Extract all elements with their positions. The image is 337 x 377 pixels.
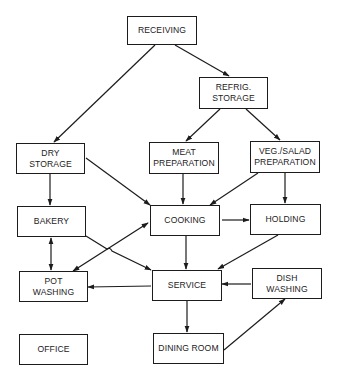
arrow-receiving-to-dry-storage bbox=[54, 45, 155, 142]
node-service: SERVICE bbox=[152, 270, 222, 301]
arrow-refrig-to-veg bbox=[246, 109, 280, 140]
node-label: PREPARATION bbox=[153, 158, 214, 169]
node-dry-storage: DRY STORAGE bbox=[16, 143, 85, 174]
arrow-holding-to-service bbox=[218, 235, 278, 269]
node-refrig-storage: REFRIG. STORAGE bbox=[199, 77, 268, 109]
arrow-refrig-to-meat bbox=[186, 109, 220, 141]
node-label: DRY bbox=[41, 148, 59, 159]
node-veg-salad-preparation: VEG./SALAD PREPARATION bbox=[250, 141, 320, 173]
node-label: BAKERY bbox=[34, 216, 69, 227]
flow-arrows bbox=[0, 0, 337, 377]
node-label: MEAT bbox=[172, 147, 196, 158]
node-holding: HOLDING bbox=[250, 204, 321, 235]
node-label: REFRIG. bbox=[216, 82, 252, 93]
node-label: SERVICE bbox=[168, 280, 206, 291]
node-receiving: RECEIVING bbox=[127, 16, 197, 45]
node-label: VEG./SALAD bbox=[259, 146, 311, 157]
arrow-veg-to-cooking bbox=[210, 173, 258, 205]
node-meat-preparation: MEAT PREPARATION bbox=[149, 142, 219, 174]
node-cooking: COOKING bbox=[150, 205, 220, 236]
food-service-flow-diagram: RECEIVING REFRIG. STORAGE DRY STORAGE ME… bbox=[0, 0, 337, 377]
node-dining-room: DINING ROOM bbox=[153, 333, 224, 364]
arrow-dry-to-cooking bbox=[86, 158, 150, 205]
node-office: OFFICE bbox=[19, 334, 88, 365]
node-label: PREPARATION bbox=[254, 157, 315, 168]
node-label: WASHING bbox=[33, 287, 74, 298]
node-bakery: BAKERY bbox=[17, 206, 86, 237]
arrow-bakery-to-service bbox=[86, 236, 151, 270]
node-label: OFFICE bbox=[37, 344, 69, 355]
node-dish-washing: DISH WASHING bbox=[252, 268, 322, 299]
node-label: POT bbox=[45, 276, 63, 287]
node-label: WASHING bbox=[266, 284, 307, 295]
node-label: STORAGE bbox=[212, 93, 255, 104]
node-label: COOKING bbox=[164, 215, 205, 226]
arrow-service-to-pot-washing bbox=[88, 286, 151, 287]
node-label: HOLDING bbox=[266, 214, 306, 225]
node-label: DINING ROOM bbox=[158, 343, 218, 354]
arrow-dining-room-to-dish-washing bbox=[224, 299, 285, 350]
node-label: DISH bbox=[277, 273, 298, 284]
node-label: STORAGE bbox=[29, 159, 72, 170]
arrow-receiving-to-refrig-storage bbox=[175, 45, 229, 76]
node-label: RECEIVING bbox=[138, 25, 186, 36]
node-pot-washing: POT WASHING bbox=[19, 271, 88, 302]
